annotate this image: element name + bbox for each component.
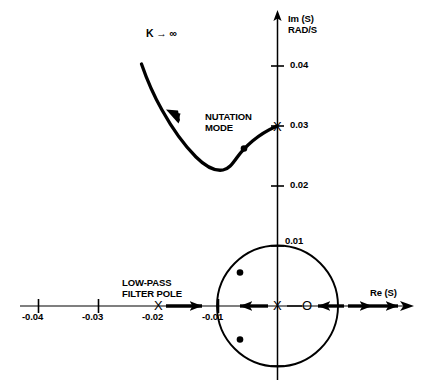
- real-axis-label: Re (S): [370, 288, 397, 299]
- k-infinity-label: K → ∞: [146, 28, 177, 40]
- gain-marker-circle-upper: [237, 269, 244, 276]
- gain-marker-nutation: [241, 145, 248, 152]
- nutation-mode-label-line2: MODE: [205, 123, 233, 134]
- imaginary-axis-label-line2: RAD/S: [288, 25, 317, 36]
- real-tick-label-neg0.03: -0.03: [82, 312, 103, 323]
- imaginary-tick-label-0.03: 0.03: [290, 120, 308, 131]
- root-locus-plot: [0, 0, 422, 391]
- imaginary-tick-label-0.01: 0.01: [285, 236, 303, 247]
- pole-marker-lowpass-filter: X: [154, 299, 163, 312]
- lowpass-filter-pole-label-line2: FILTER POLE: [122, 289, 182, 300]
- imaginary-tick-label-0.02: 0.02: [290, 180, 308, 191]
- root-locus-figure: Im (S) RAD/S 0.04 0.03 0.02 0.01 Re (S) …: [0, 0, 422, 391]
- imaginary-tick-label-0.04: 0.04: [290, 60, 308, 71]
- pole-marker-origin: X: [273, 299, 282, 312]
- real-tick-label-neg0.02: -0.02: [142, 312, 163, 323]
- gain-marker-circle-lower: [237, 336, 244, 343]
- zero-marker: O: [302, 299, 312, 312]
- pole-marker-nutation-mode: X: [273, 120, 282, 133]
- real-tick-label-neg0.01: -0.01: [202, 312, 223, 323]
- real-tick-label-neg0.04: -0.04: [22, 312, 43, 323]
